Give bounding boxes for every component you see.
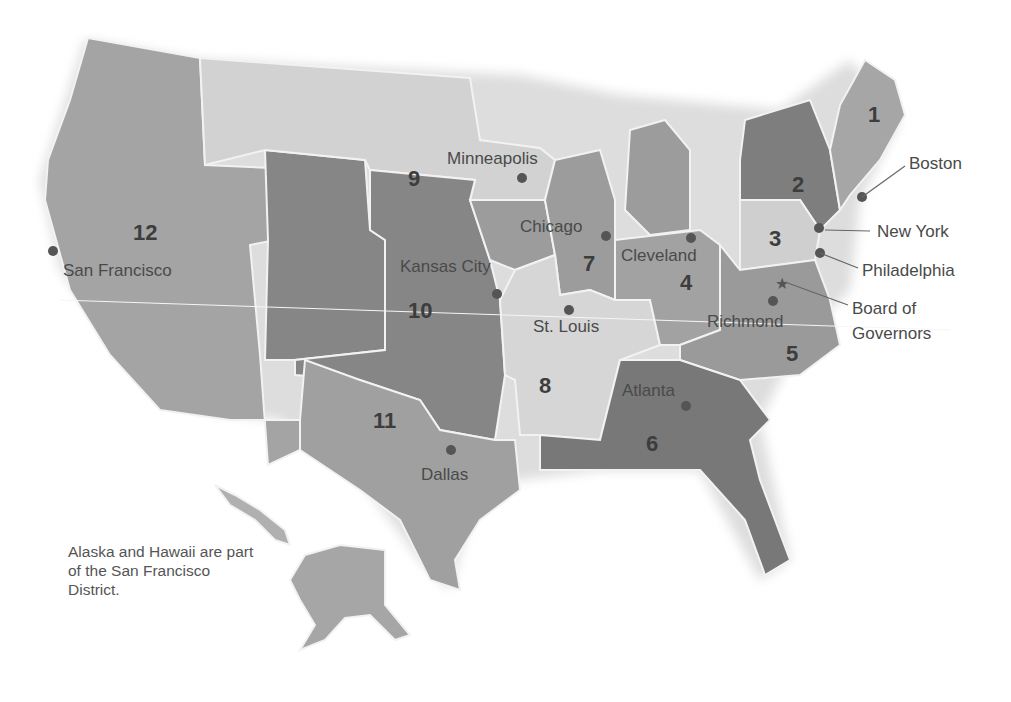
city-label-richmond: Richmond — [707, 313, 784, 330]
city-label-dallas: Dallas — [421, 466, 468, 483]
city-label-st-louis: St. Louis — [533, 318, 599, 335]
district-number-7: 7 — [583, 253, 595, 275]
city-label-cleveland: Cleveland — [621, 247, 697, 264]
district-7-michigan — [625, 120, 690, 235]
district-number-12: 12 — [133, 222, 157, 244]
board-label-line2: Governors — [852, 325, 931, 342]
city-label-chicago: Chicago — [520, 218, 582, 235]
district-number-4: 4 — [680, 272, 692, 294]
minneapolis-dot — [517, 173, 527, 183]
alaska-hawaii-note: Alaska and Hawaii are part of the San Fr… — [68, 542, 258, 599]
city-label-kansas-city: Kansas City — [400, 258, 491, 275]
city-label-philadelphia: Philadelphia — [862, 262, 955, 279]
new-york-dot — [814, 223, 824, 233]
city-label-atlanta: Atlanta — [622, 382, 675, 399]
richmond-dot — [768, 296, 778, 306]
cleveland-dot — [686, 233, 696, 243]
chicago-dot — [601, 231, 611, 241]
district-10-west — [265, 150, 385, 360]
st-louis-dot — [564, 305, 574, 315]
san-francisco-dot — [48, 246, 58, 256]
hawaii — [215, 485, 290, 545]
alaska — [290, 545, 410, 650]
district-number-11: 11 — [373, 410, 396, 432]
district-number-10: 10 — [408, 300, 432, 322]
city-label-minneapolis: Minneapolis — [447, 150, 538, 167]
district-number-9: 9 — [408, 168, 420, 190]
district-number-3: 3 — [769, 228, 781, 250]
district-number-2: 2 — [792, 174, 804, 196]
city-label-new-york: New York — [877, 223, 949, 240]
city-label-san-francisco: San Francisco — [63, 262, 172, 279]
atlanta-dot — [681, 401, 691, 411]
dallas-dot — [446, 445, 456, 455]
district-number-8: 8 — [539, 375, 551, 397]
board-label-line1: Board of — [852, 300, 916, 317]
city-label-boston: Boston — [909, 155, 962, 172]
district-number-6: 6 — [646, 433, 658, 455]
district-number-5: 5 — [786, 343, 798, 365]
kansas-city-dot — [492, 289, 502, 299]
board-of-governors-star-icon: ★ — [775, 274, 789, 293]
district-number-1: 1 — [868, 104, 880, 126]
